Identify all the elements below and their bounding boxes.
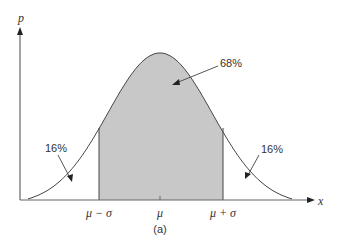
y-axis-arrow-icon (17, 27, 23, 35)
right-tail-percent-label: 16% (261, 143, 283, 155)
x-axis-arrow-icon (307, 197, 315, 203)
right-tail-arrow-head-icon (245, 172, 251, 179)
normal-distribution-diagram: p x μ − σ μ μ + σ (a) 68% 16% 16% (0, 0, 339, 252)
left-tail-percent-label: 16% (45, 142, 67, 154)
central-percent-label: 68% (220, 57, 242, 69)
tick-label-mu-minus-sigma: μ − σ (85, 206, 113, 220)
x-axis-label: x (317, 194, 324, 208)
right-tail-arrow (248, 155, 259, 175)
shaded-central-region (99, 53, 223, 200)
left-tail-arrow-head-icon (67, 174, 73, 182)
y-axis-label: p (17, 11, 24, 25)
tick-label-mu-plus-sigma: μ + σ (209, 206, 237, 220)
figure-caption: (a) (153, 223, 166, 235)
left-tail-arrow (58, 155, 70, 178)
tick-label-mu: μ (156, 206, 163, 220)
